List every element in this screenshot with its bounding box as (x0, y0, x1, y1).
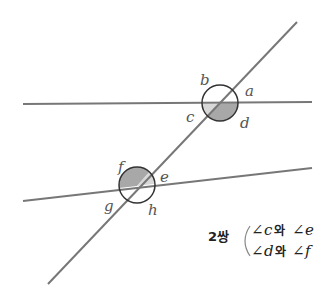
angle-symbol: ∠ (292, 242, 305, 260)
label-c: c (186, 108, 195, 126)
label-h: h (148, 201, 158, 219)
angle-symbol: ∠ (292, 221, 305, 239)
label-b: b (200, 71, 210, 89)
label-g: g (104, 197, 114, 215)
pair2-left: d (264, 242, 274, 260)
label-e: e (160, 168, 169, 186)
angle-diagram: b a c d f e g h 2쌍 ∠ c 와 ∠ e ∠ d 와 ∠ f (0, 0, 331, 297)
pair-count: 2쌍 (208, 229, 229, 244)
angle-symbol: ∠ (251, 221, 264, 239)
upper-parallel-line (23, 102, 312, 104)
pair-1: ∠ c 와 ∠ e (251, 221, 314, 239)
angle-symbol: ∠ (251, 242, 264, 260)
pair1-right: e (305, 221, 314, 239)
pair1-join: 와 (274, 223, 285, 238)
label-a: a (245, 82, 254, 100)
brace (245, 226, 250, 256)
pair2-right: f (304, 242, 313, 260)
pair1-left: c (264, 221, 273, 239)
diagram-canvas: b a c d f e g h 2쌍 ∠ c 와 ∠ e ∠ d 와 ∠ f (0, 0, 331, 297)
pair-2: ∠ d 와 ∠ f (251, 242, 313, 260)
pair2-join: 와 (275, 244, 286, 259)
label-d: d (240, 114, 250, 132)
